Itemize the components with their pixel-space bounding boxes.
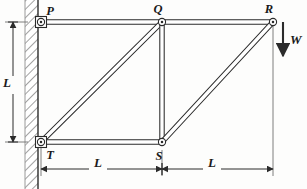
pin-center-dot — [40, 141, 43, 144]
load-label-W: W — [290, 32, 303, 47]
joint-S — [158, 138, 165, 145]
pin-center-dot — [161, 141, 164, 144]
joint-label-T: T — [46, 148, 55, 162]
joint-T — [36, 137, 47, 148]
member-body — [41, 20, 162, 24]
member-body — [160, 21, 274, 144]
dimension-label-horizontal-L-right: L — [207, 155, 216, 170]
joint-label-Q: Q — [153, 2, 162, 16]
pin-center-dot — [272, 21, 275, 24]
diagram-canvas: W LLLPQRTS — [0, 0, 307, 189]
truss-member-TQ — [39, 20, 163, 143]
truss-member-QR — [162, 20, 273, 24]
truss-member-PQ — [41, 20, 162, 24]
applied-load: W — [283, 22, 303, 56]
joint-label-S: S — [156, 149, 163, 163]
joint-Q — [158, 18, 165, 25]
dimension-label-horizontal-L-left: L — [93, 155, 102, 170]
truss-member-QS — [160, 22, 164, 142]
member-body — [39, 20, 163, 143]
joint-P — [36, 17, 47, 28]
joint-label-P: P — [46, 4, 54, 18]
joint-label-R: R — [264, 2, 273, 16]
member-body — [160, 22, 164, 142]
truss-joints — [36, 17, 277, 148]
truss-members — [39, 20, 274, 144]
joint-R — [269, 18, 276, 25]
fixed-wall — [25, 0, 38, 189]
truss-diagram-figure: W LLLPQRTS — [0, 0, 307, 189]
dimension-label-vertical-L: L — [2, 75, 11, 90]
member-body — [41, 140, 162, 144]
member-body — [162, 20, 273, 24]
pin-center-dot — [161, 21, 164, 24]
truss-member-TS — [41, 140, 162, 144]
pin-center-dot — [40, 21, 43, 24]
wall-hatching — [25, 0, 38, 189]
truss-member-SR — [160, 21, 274, 144]
